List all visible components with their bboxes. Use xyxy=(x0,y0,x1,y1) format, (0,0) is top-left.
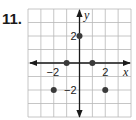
data-point xyxy=(102,87,108,93)
coordinate-plane: −22 2−2 x y xyxy=(0,0,136,120)
x-tick-label: −2 xyxy=(46,66,59,78)
data-point xyxy=(89,60,95,66)
y-tick-label: −2 xyxy=(64,84,77,96)
x-tick-label: 2 xyxy=(102,66,108,78)
data-point xyxy=(77,33,83,39)
x-axis-label: x xyxy=(122,65,129,79)
data-point xyxy=(51,87,57,93)
y-tick-label: 2 xyxy=(70,30,76,42)
y-axis-label: y xyxy=(83,8,90,22)
data-point xyxy=(64,60,70,66)
